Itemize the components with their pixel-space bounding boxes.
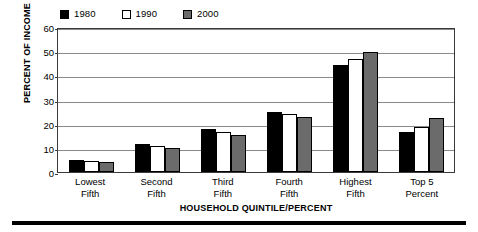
bar-1990-second-fifth bbox=[150, 146, 165, 172]
bar-1990-highest-fifth bbox=[348, 59, 363, 172]
bar-1980-lowest-fifth bbox=[69, 160, 84, 172]
bottom-rule bbox=[12, 221, 466, 225]
bar-chart-figure: 198019902000 PERCENT OF INCOME 010203040… bbox=[0, 0, 478, 232]
x-tick-label-line: Highest bbox=[322, 176, 388, 188]
x-tick-label-line: Fourth bbox=[256, 176, 322, 188]
x-tick-label: Top 5Percent bbox=[389, 176, 455, 199]
bar-group bbox=[124, 29, 190, 172]
x-tick-label-line: Fifth bbox=[57, 188, 123, 200]
bar-2000-second-fifth bbox=[165, 148, 180, 172]
bar-group bbox=[256, 29, 322, 172]
bar-1980-highest-fifth bbox=[333, 65, 348, 172]
legend-item-1980: 1980 bbox=[60, 9, 96, 19]
legend-label: 2000 bbox=[197, 9, 219, 19]
y-tick-mark bbox=[55, 174, 58, 175]
x-tick-label-line: Fifth bbox=[322, 188, 388, 200]
bar-1990-fourth-fifth bbox=[282, 114, 297, 172]
bar-1980-second-fifth bbox=[135, 144, 150, 172]
bar-group bbox=[388, 29, 454, 172]
legend-item-1990: 1990 bbox=[122, 9, 158, 19]
x-tick-label-line: Percent bbox=[389, 188, 455, 200]
y-tick-label: 50 bbox=[24, 48, 54, 58]
x-tick-label: LowestFifth bbox=[57, 176, 123, 199]
bar-1980-fourth-fifth bbox=[267, 112, 282, 172]
bar-1980-third-fifth bbox=[201, 129, 216, 172]
y-tick-label: 20 bbox=[24, 121, 54, 131]
bar-2000-lowest-fifth bbox=[99, 162, 114, 172]
x-tick-label-line: Lowest bbox=[57, 176, 123, 188]
chart-legend: 198019902000 bbox=[60, 6, 219, 22]
bar-groups bbox=[58, 29, 454, 172]
bar-1980-top-5-percent bbox=[399, 132, 414, 172]
bar-2000-third-fifth bbox=[231, 135, 246, 172]
plot-area: 0102030405060 bbox=[57, 28, 455, 173]
x-tick-label-line: Fifth bbox=[123, 188, 189, 200]
x-tick-label-line: Fifth bbox=[190, 188, 256, 200]
bar-1990-lowest-fifth bbox=[84, 161, 99, 172]
x-tick-label-line: Third bbox=[190, 176, 256, 188]
y-tick-label: 60 bbox=[24, 24, 54, 34]
bar-1990-third-fifth bbox=[216, 132, 231, 172]
y-tick-label: 10 bbox=[24, 145, 54, 155]
y-tick-label: 0 bbox=[24, 169, 54, 179]
y-tick-label: 30 bbox=[24, 97, 54, 107]
legend-swatch-icon bbox=[183, 10, 192, 19]
bar-group bbox=[58, 29, 124, 172]
bar-group bbox=[190, 29, 256, 172]
x-tick-label: FourthFifth bbox=[256, 176, 322, 199]
bar-2000-highest-fifth bbox=[363, 52, 378, 172]
x-tick-label: SecondFifth bbox=[123, 176, 189, 199]
x-tick-label-line: Top 5 bbox=[389, 176, 455, 188]
legend-swatch-icon bbox=[60, 10, 69, 19]
bar-group bbox=[322, 29, 388, 172]
x-tick-label: ThirdFifth bbox=[190, 176, 256, 199]
legend-item-2000: 2000 bbox=[183, 9, 219, 19]
x-axis-tick-labels: LowestFifthSecondFifthThirdFifthFourthFi… bbox=[57, 176, 455, 199]
x-tick-label-line: Fifth bbox=[256, 188, 322, 200]
legend-swatch-icon bbox=[122, 10, 131, 19]
x-tick-label-line: Second bbox=[123, 176, 189, 188]
legend-label: 1980 bbox=[74, 9, 96, 19]
x-tick-label: HighestFifth bbox=[322, 176, 388, 199]
bar-2000-fourth-fifth bbox=[297, 117, 312, 172]
legend-label: 1990 bbox=[136, 9, 158, 19]
y-tick-label: 40 bbox=[24, 73, 54, 83]
x-axis-title: HOUSEHOLD QUINTILE/PERCENT bbox=[57, 203, 455, 213]
bar-2000-top-5-percent bbox=[429, 118, 444, 172]
bar-1990-top-5-percent bbox=[414, 127, 429, 172]
